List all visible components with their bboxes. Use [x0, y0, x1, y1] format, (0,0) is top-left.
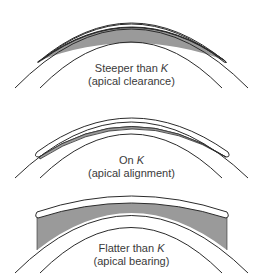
panel-on-k-subtitle: (apical alignment) [0, 167, 263, 180]
panel-steeper-title: Steeper than K [0, 62, 263, 75]
panel-on-k-title: On K [0, 154, 263, 167]
panel-steeper-subtitle: (apical clearance) [0, 75, 263, 88]
contact-lens [35, 118, 229, 157]
panel-flatter-title: Flatter than K [0, 242, 263, 255]
panel-flatter-subtitle: (apical bearing) [0, 255, 263, 268]
contact-lens-fit-diagram [0, 0, 263, 278]
